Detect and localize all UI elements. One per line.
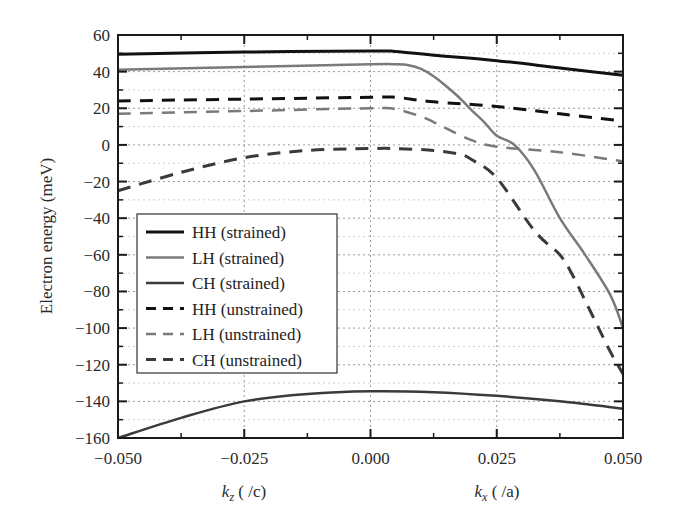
x-axis-label-kz: kz ( /c) xyxy=(222,482,266,504)
kz-unit: ( /c) xyxy=(234,482,266,501)
x-tick-label: 0.000 xyxy=(351,449,389,468)
x-tick-labels: −0.050−0.0250.0000.0250.050 xyxy=(94,449,642,468)
kx-unit: ( /a) xyxy=(487,482,519,501)
y-tick-label: −60 xyxy=(83,246,110,265)
y-tick-label: −160 xyxy=(75,429,110,448)
y-tick-label: −80 xyxy=(83,282,110,301)
y-tick-label: −20 xyxy=(83,173,110,192)
y-tick-labels: 6040200−20−40−60−80−100−120−140−160 xyxy=(75,26,110,448)
x-tick-label: 0.050 xyxy=(604,449,642,468)
y-axis-label: Electron energy (meV) xyxy=(37,158,56,314)
y-tick-label: 20 xyxy=(93,99,110,118)
y-tick-label: 0 xyxy=(102,136,111,155)
x-tick-label: −0.050 xyxy=(94,449,142,468)
legend-label: LH (strained) xyxy=(192,249,284,268)
chart: 6040200−20−40−60−80−100−120−140−160 −0.0… xyxy=(0,0,680,523)
legend: HH (strained)LH (strained)CH (strained)H… xyxy=(137,214,337,373)
y-tick-label: −140 xyxy=(75,392,110,411)
y-tick-label: 60 xyxy=(93,26,110,45)
legend-label: HH (unstrained) xyxy=(192,300,303,319)
y-tick-label: 40 xyxy=(93,63,110,82)
y-tick-label: −100 xyxy=(75,319,110,338)
x-tick-label: 0.025 xyxy=(478,449,516,468)
x-axis-label-kx: kx ( /a) xyxy=(475,482,520,504)
legend-label: LH (unstrained) xyxy=(192,325,301,344)
legend-label: CH (strained) xyxy=(192,274,285,293)
y-tick-label: −120 xyxy=(75,356,110,375)
legend-label: CH (unstrained) xyxy=(192,351,302,370)
x-tick-label: −0.025 xyxy=(220,449,268,468)
y-tick-label: −40 xyxy=(83,209,110,228)
legend-label: HH (strained) xyxy=(192,223,286,242)
